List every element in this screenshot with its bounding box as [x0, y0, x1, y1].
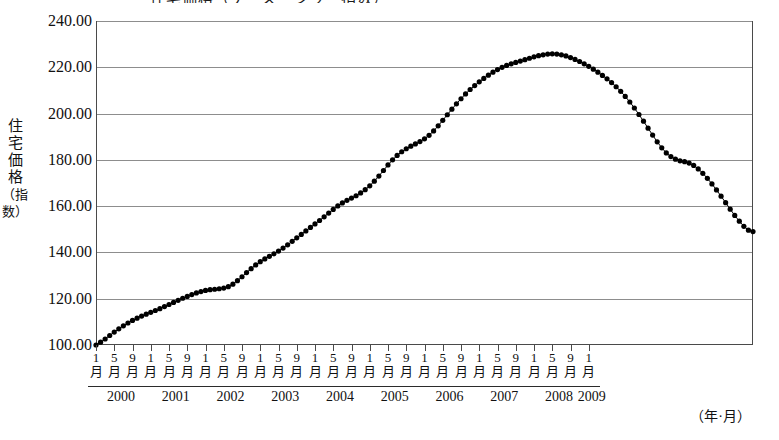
- data-point-marker: [682, 159, 687, 164]
- data-point-marker: [563, 53, 568, 58]
- data-point-marker: [249, 266, 254, 271]
- data-point-marker: [413, 141, 418, 146]
- data-point-marker: [399, 149, 404, 154]
- data-point-marker: [541, 52, 546, 57]
- y-axis-tick-label: 120.00: [6, 291, 92, 307]
- data-point-marker: [185, 294, 190, 299]
- data-point-marker: [445, 112, 450, 117]
- data-point-marker: [632, 105, 637, 110]
- data-point-marker: [203, 288, 208, 293]
- data-point-marker: [732, 213, 737, 218]
- data-point-marker: [212, 287, 217, 292]
- data-point-marker: [714, 187, 719, 192]
- data-point-marker: [664, 150, 669, 155]
- data-point-marker: [705, 176, 710, 181]
- data-point-marker: [367, 183, 372, 188]
- data-point-marker: [326, 210, 331, 215]
- data-point-marker: [468, 87, 473, 92]
- y-axis-tick-labels: 240.00220.00200.00180.00160.00140.00120.…: [0, 21, 92, 345]
- data-point-marker: [395, 153, 400, 158]
- data-point-marker: [741, 224, 746, 229]
- y-axis-tick-label: 100.00: [6, 337, 92, 353]
- data-point-marker: [189, 292, 194, 297]
- data-point-marker: [363, 187, 368, 192]
- data-point-marker: [559, 52, 564, 57]
- y-axis-tick-label: 140.00: [6, 244, 92, 260]
- data-point-marker: [258, 259, 263, 264]
- series-line: [96, 54, 753, 345]
- data-point-marker: [477, 79, 482, 84]
- data-point-marker: [490, 70, 495, 75]
- data-point-marker: [655, 139, 660, 144]
- data-point-marker: [381, 168, 386, 173]
- data-point-marker: [103, 336, 108, 341]
- x-axis-tick-label: 1月: [578, 351, 600, 379]
- data-point-marker: [627, 99, 632, 104]
- data-point-marker: [545, 51, 550, 56]
- data-point-marker: [171, 300, 176, 305]
- data-point-marker: [144, 312, 149, 317]
- data-point-marker: [723, 200, 728, 205]
- data-point-marker: [709, 181, 714, 186]
- data-point-marker: [303, 228, 308, 233]
- data-point-marker: [353, 193, 358, 198]
- data-point-marker: [335, 203, 340, 208]
- data-point-marker: [385, 162, 390, 167]
- data-point-marker: [121, 323, 126, 328]
- data-point-marker: [148, 310, 153, 315]
- data-point-marker: [673, 157, 678, 162]
- data-point-marker: [499, 65, 504, 70]
- data-point-marker: [166, 302, 171, 307]
- data-point-marker: [162, 304, 167, 309]
- data-point-marker: [308, 225, 313, 230]
- data-point-marker: [481, 76, 486, 81]
- data-point-marker: [299, 232, 304, 237]
- data-point-marker: [294, 235, 299, 240]
- data-point-marker: [504, 63, 509, 68]
- data-point-marker: [322, 214, 327, 219]
- data-point-marker: [267, 254, 272, 259]
- data-point-marker: [217, 286, 222, 291]
- data-point-marker: [239, 274, 244, 279]
- data-point-marker: [531, 54, 536, 59]
- data-point-marker: [226, 284, 231, 289]
- data-point-marker: [618, 89, 623, 94]
- data-point-marker: [614, 84, 619, 89]
- data-point-marker: [495, 67, 500, 72]
- data-point-marker: [509, 61, 514, 66]
- data-point-marker: [677, 158, 682, 163]
- data-point-marker: [737, 219, 742, 224]
- data-point-marker: [271, 251, 276, 256]
- data-point-marker: [463, 91, 468, 96]
- y-axis-tick-label: 220.00: [6, 59, 92, 75]
- data-point-marker: [404, 146, 409, 151]
- data-point-marker: [107, 333, 112, 338]
- data-point-marker: [668, 154, 673, 159]
- data-point-marker: [454, 101, 459, 106]
- data-point-marker: [550, 51, 555, 56]
- data-point-marker: [486, 73, 491, 78]
- data-point-marker: [609, 80, 614, 85]
- data-point-marker: [604, 76, 609, 81]
- data-point-marker: [591, 67, 596, 72]
- data-point-marker: [290, 239, 295, 244]
- data-point-marker: [595, 70, 600, 75]
- data-point-marker: [700, 171, 705, 176]
- data-point-marker: [230, 282, 235, 287]
- data-point-marker: [390, 157, 395, 162]
- data-point-marker: [180, 296, 185, 301]
- data-point-marker: [317, 218, 322, 223]
- data-point-marker: [440, 118, 445, 123]
- data-point-marker: [513, 60, 518, 65]
- data-point-marker: [134, 316, 139, 321]
- data-series-housing-price-index: [96, 21, 753, 345]
- data-point-marker: [340, 200, 345, 205]
- data-point-marker: [582, 61, 587, 66]
- data-point-marker: [116, 326, 121, 331]
- data-point-marker: [417, 139, 422, 144]
- data-point-marker: [449, 107, 454, 112]
- data-point-marker: [262, 256, 267, 261]
- data-point-marker: [198, 289, 203, 294]
- data-point-marker: [522, 57, 527, 62]
- data-point-marker: [376, 173, 381, 178]
